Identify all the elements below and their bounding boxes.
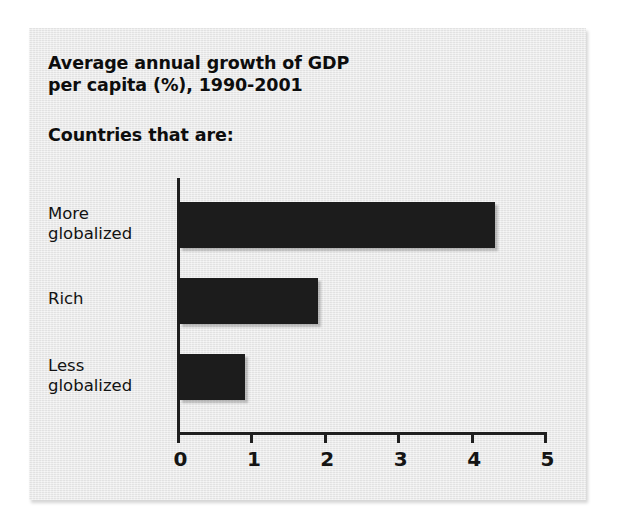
x-axis-tick-label-2: 2 — [307, 447, 347, 471]
category-label-line-2: globalized — [48, 224, 173, 244]
x-axis-tick-label-4: 4 — [454, 447, 494, 471]
category-label-more-globalized: Moreglobalized — [48, 204, 173, 244]
category-label-line-1: Rich — [48, 289, 173, 309]
x-axis-tick-3 — [397, 432, 400, 443]
figure-root: Average annual growth of GDP per capita … — [0, 0, 618, 531]
x-axis-tick-2 — [324, 432, 327, 443]
x-axis-tick-label-1: 1 — [234, 447, 274, 471]
plot-area: 012345 MoreglobalizedRichLessglobalized — [29, 28, 586, 500]
category-label-line-1: More — [48, 204, 173, 224]
category-label-line-2: globalized — [48, 376, 173, 396]
category-label-rich: Rich — [48, 289, 173, 309]
x-axis-tick-1 — [250, 432, 253, 443]
x-axis-tick-label-0: 0 — [161, 447, 201, 471]
x-axis-tick-4 — [471, 432, 474, 443]
bar-less-globalized — [179, 354, 245, 400]
category-label-line-1: Less — [48, 356, 173, 376]
category-label-less-globalized: Lessglobalized — [48, 356, 173, 396]
x-axis-tick-0 — [177, 432, 180, 443]
x-axis-tick-label-5: 5 — [528, 447, 568, 471]
bar-more-globalized — [179, 202, 495, 248]
x-axis-tick-label-3: 3 — [381, 447, 421, 471]
x-axis-tick-5 — [544, 432, 547, 443]
x-axis-line — [177, 432, 546, 435]
bar-rich — [179, 278, 318, 324]
chart-panel: Average annual growth of GDP per capita … — [29, 28, 586, 500]
